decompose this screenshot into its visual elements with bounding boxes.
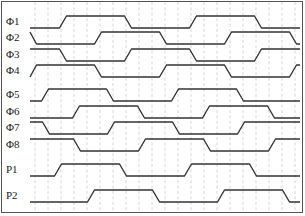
timing-diagram: Φ1Φ2Φ3Φ4Φ5Φ6Φ7Φ8P1P2 [0, 0, 305, 216]
signal-label-phi4: Φ4 [6, 65, 20, 76]
signal-label-phi8: Φ8 [6, 139, 20, 150]
signal-label-p1: P1 [6, 164, 18, 175]
signal-label-phi2: Φ2 [6, 32, 20, 43]
signal-label-phi5: Φ5 [6, 89, 20, 100]
signal-label-phi6: Φ6 [6, 106, 20, 117]
waveform-canvas [0, 0, 305, 216]
signal-label-phi3: Φ3 [6, 49, 20, 60]
signal-waveforms [30, 16, 300, 202]
waveform-phi2 [30, 32, 300, 44]
signal-label-phi7: Φ7 [6, 122, 20, 133]
signal-label-phi1: Φ1 [6, 16, 20, 27]
grid-lines [35, 2, 295, 212]
signal-label-p2: P2 [6, 190, 18, 201]
